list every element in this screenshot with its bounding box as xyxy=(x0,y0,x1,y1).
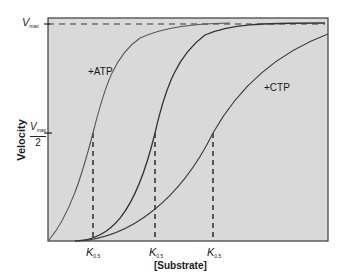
y-axis-title: Velocity xyxy=(15,115,27,165)
vmax-label: Vmax xyxy=(22,16,39,29)
k-ctp-label: K0.5 xyxy=(207,246,221,259)
vhalf-label: Vmax 2 xyxy=(30,121,46,148)
k-none-label: K0.5 xyxy=(149,246,163,259)
ctp-curve-label: +CTP xyxy=(264,82,290,93)
atp-curve-label: +ATP xyxy=(88,66,113,77)
k-atp-label: K0.5 xyxy=(86,246,100,259)
x-axis-title: [Substrate] xyxy=(154,260,207,271)
chart-canvas xyxy=(0,0,342,280)
